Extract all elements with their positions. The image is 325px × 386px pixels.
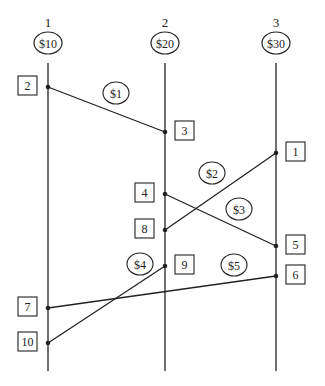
message-amount: $5	[221, 254, 247, 276]
event-number-label: 2	[25, 79, 31, 93]
event-6: 6	[274, 265, 305, 284]
event-number-label: 8	[142, 222, 148, 236]
message-line	[48, 266, 165, 343]
event-dot	[46, 85, 51, 90]
event-number-label: 10	[22, 335, 34, 349]
process-number-label: 3	[273, 15, 280, 30]
event-dot	[274, 151, 279, 156]
space-time-diagram: 1$102$203$30 23148596710 $1$2$3$4$5	[0, 0, 325, 386]
event-5: 5	[274, 235, 305, 254]
message-amount: $3	[226, 198, 252, 220]
amount-label: $3	[233, 203, 245, 217]
event-4: 4	[135, 183, 167, 202]
event-dot	[274, 274, 279, 279]
message-line	[165, 194, 276, 246]
event-dot	[46, 341, 51, 346]
event-number-label: 6	[293, 268, 299, 282]
event-number-label: 4	[142, 186, 148, 200]
event-2: 2	[18, 76, 50, 95]
event-dot	[163, 192, 168, 197]
event-8: 8	[135, 219, 167, 238]
amount-label: $1	[110, 87, 122, 101]
process-number-label: 1	[45, 15, 52, 30]
event-10: 10	[18, 332, 50, 351]
message-amount: $2	[199, 162, 225, 184]
event-number-label: 5	[293, 238, 299, 252]
event-dot	[46, 306, 51, 311]
event-dot	[274, 244, 279, 249]
process-3: 3$30	[262, 15, 290, 371]
event-dot	[163, 130, 168, 135]
event-markers: 23148596710	[18, 76, 305, 351]
event-number-label: 3	[182, 124, 188, 138]
initial-amount-label: $30	[267, 37, 285, 51]
amount-label: $2	[206, 167, 218, 181]
event-number-label: 1	[293, 145, 299, 159]
message-amount: $1	[103, 82, 129, 104]
event-3: 3	[163, 121, 194, 140]
event-dot	[163, 264, 168, 269]
event-1: 1	[274, 142, 305, 161]
amount-label: $4	[134, 258, 146, 272]
event-7: 7	[18, 297, 50, 316]
message-amount-labels: $1$2$3$4$5	[103, 82, 252, 276]
event-number-label: 9	[182, 258, 188, 272]
process-number-label: 2	[162, 15, 169, 30]
event-dot	[163, 228, 168, 233]
message-line	[48, 276, 276, 308]
process-1: 1$10	[34, 15, 62, 371]
message-amount: $4	[127, 253, 153, 275]
initial-amount-label: $20	[156, 37, 174, 51]
event-number-label: 7	[25, 300, 31, 314]
initial-amount-label: $10	[39, 37, 57, 51]
process-timelines: 1$102$203$30	[34, 15, 290, 371]
event-9: 9	[163, 255, 194, 274]
amount-label: $5	[228, 259, 240, 273]
